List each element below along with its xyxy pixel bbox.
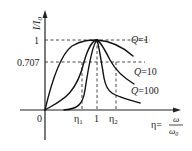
svg-text:ω: ω xyxy=(173,114,179,124)
y-axis-label: I/I0 xyxy=(31,17,44,31)
svg-text:ω0: ω0 xyxy=(169,126,178,137)
x-tick-eta1: η1 xyxy=(74,113,83,126)
series-label-q10: Q=10 xyxy=(134,66,157,77)
x-axis-arrow xyxy=(173,108,181,113)
y-tick-1: 1 xyxy=(34,35,39,46)
svg-text:I/I0: I/I0 xyxy=(31,17,44,31)
series-curve-q10 xyxy=(45,40,134,110)
y-axis-arrow xyxy=(43,10,48,18)
series-curve-q1 xyxy=(45,40,133,110)
x-axis-label: η= ω ω0 xyxy=(151,114,183,137)
y-tick-0707: 0.707 xyxy=(17,57,40,68)
series-label-q100: Q=100 xyxy=(131,85,159,96)
svg-text:η=: η= xyxy=(151,119,162,130)
x-tick-origin: 0 xyxy=(37,113,42,124)
y-axis-label-main: I/I xyxy=(31,20,42,31)
x-tick-eta2: η2 xyxy=(109,113,118,126)
series-curve-q100 xyxy=(64,40,140,110)
x-tick-1: 1 xyxy=(94,113,99,124)
resonance-chart: I/I0 1 0.707 0 η1 1 η2 η= ω ω0 Q=1 Q=10 … xyxy=(0,0,192,151)
y-axis-label-sub: 0 xyxy=(36,17,44,21)
series-label-q1: Q=1 xyxy=(131,34,149,45)
